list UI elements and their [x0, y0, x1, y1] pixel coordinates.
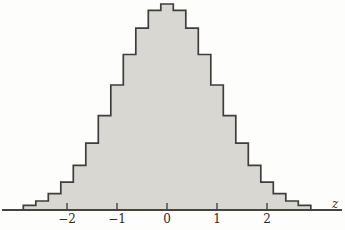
- histogram-steps-shape: [23, 4, 311, 210]
- x-axis-tick-label--1: −1: [108, 212, 126, 226]
- x-axis-tick-label--2: −2: [58, 212, 76, 226]
- x-axis-label: z: [331, 197, 339, 211]
- figure-canvas: −2−1012 z: [0, 0, 345, 230]
- x-axis-tick-label-0: 0: [163, 212, 171, 226]
- x-axis-tick-labels: −2−1012: [58, 212, 271, 226]
- normal-histogram-chart: −2−1012 z: [0, 0, 345, 230]
- x-axis-tick-label-2: 2: [263, 212, 271, 226]
- x-axis-tick-label-1: 1: [213, 212, 221, 226]
